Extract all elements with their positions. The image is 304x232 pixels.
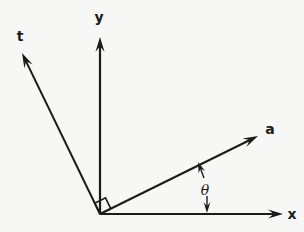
x-axis-group [100,209,283,218]
a-vector-arrowhead [243,136,258,147]
figure-canvas: t y x a θ [0,0,304,232]
diagram-svg [0,0,304,232]
t-axis-group [22,53,100,214]
a-vector-line [100,140,250,214]
a-vector-group [100,136,258,214]
a-vector-label: a [265,122,274,136]
y-axis-label: y [94,10,103,24]
y-axis-group [95,37,104,214]
t-axis-line [26,61,100,214]
t-axis-label: t [17,29,24,43]
theta-angle-label: θ [201,183,209,197]
x-axis-label: x [287,207,296,221]
